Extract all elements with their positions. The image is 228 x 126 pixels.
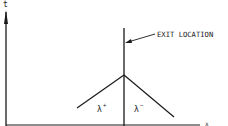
diagram-canvas: t x EXIT LOCATION λ + λ − bbox=[0, 0, 228, 126]
lambda-minus-label: λ bbox=[134, 105, 139, 114]
t-axis-arrowhead-icon bbox=[4, 10, 8, 24]
lambda-plus-superscript: + bbox=[103, 102, 107, 108]
t-axis-label: t bbox=[3, 0, 8, 9]
lambda-plus-label: λ bbox=[97, 105, 102, 114]
lambda-minus-superscript: − bbox=[140, 102, 144, 108]
lambda-minus-characteristic bbox=[124, 75, 174, 117]
exit-pointer-arrowhead-icon bbox=[125, 39, 132, 43]
characteristics-diagram: t x EXIT LOCATION λ + λ − bbox=[0, 0, 228, 126]
exit-location-label: EXIT LOCATION bbox=[157, 30, 213, 39]
exit-pointer-line bbox=[128, 34, 155, 42]
lambda-plus-characteristic bbox=[77, 75, 124, 108]
x-axis-label: x bbox=[205, 120, 209, 126]
